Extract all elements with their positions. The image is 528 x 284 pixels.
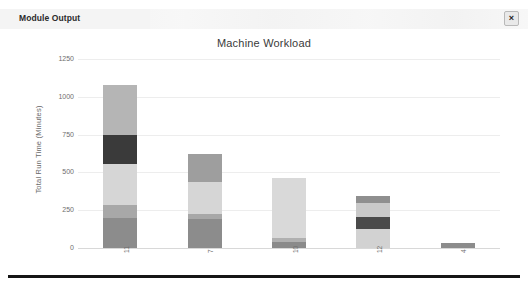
y-tick-label: 1000 — [40, 93, 74, 100]
y-tick-label: 500 — [40, 168, 74, 175]
bar-segment[interactable] — [356, 196, 390, 203]
y-tick-label: 250 — [40, 206, 74, 213]
bar-segment[interactable] — [103, 205, 137, 218]
bar[interactable] — [272, 178, 306, 248]
module-output-window: Module Output × Machine Workload Total R… — [0, 0, 528, 284]
bar-segment[interactable] — [103, 85, 137, 136]
bar-segment[interactable] — [272, 178, 306, 238]
y-tick-label: 1250 — [40, 55, 74, 62]
gridline — [78, 172, 500, 173]
bar-segment[interactable] — [272, 242, 306, 248]
bar-segment[interactable] — [103, 135, 137, 164]
bar-segment[interactable] — [356, 203, 390, 217]
close-icon: × — [509, 14, 514, 23]
x-tick-label: 10 — [292, 246, 299, 253]
window-titlebar: Module Output × — [0, 9, 528, 29]
gridline — [78, 59, 500, 60]
bar-segment[interactable] — [188, 214, 222, 219]
bar-segment[interactable] — [272, 238, 306, 242]
bar-segment[interactable] — [188, 154, 222, 182]
plot-area — [78, 59, 500, 249]
bar[interactable] — [441, 243, 475, 248]
close-button[interactable]: × — [504, 11, 519, 26]
bottom-rule — [8, 275, 520, 278]
bar-segment[interactable] — [356, 217, 390, 229]
bar[interactable] — [356, 196, 390, 248]
y-axis-title-wrapper: Total Run Time (Minutes) — [18, 59, 32, 249]
bar-segment[interactable] — [188, 219, 222, 248]
chart-panel: Machine Workload Total Run Time (Minutes… — [0, 29, 528, 272]
chart-title: Machine Workload — [0, 37, 528, 49]
y-axis-tick-labels: 025050075010001250 — [36, 59, 74, 249]
bar-segment[interactable] — [441, 243, 475, 248]
gridline — [78, 97, 500, 98]
axis-baseline — [78, 248, 500, 249]
bar-segment[interactable] — [356, 229, 390, 248]
window-title: Module Output — [19, 13, 80, 23]
y-tick-label: 750 — [40, 131, 74, 138]
x-tick-label: 12 — [376, 246, 383, 253]
bar[interactable] — [103, 85, 137, 248]
x-axis-tick-labels: 11710124 — [78, 250, 500, 272]
bar-segment[interactable] — [103, 164, 137, 205]
bar-segment[interactable] — [103, 218, 137, 248]
x-tick-label: 7 — [207, 249, 214, 253]
x-tick-label: 4 — [460, 249, 467, 253]
bar[interactable] — [188, 154, 222, 248]
x-tick-label: 11 — [123, 246, 130, 253]
y-tick-label: 0 — [40, 244, 74, 251]
bar-segment[interactable] — [188, 182, 222, 214]
gridline — [78, 135, 500, 136]
